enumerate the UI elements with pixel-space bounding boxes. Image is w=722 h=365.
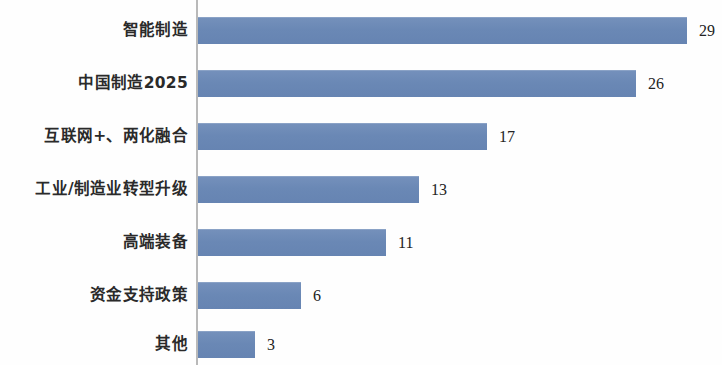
bar-rows-container: 智能制造29中国制造202526互联网+、两化融合17工业/制造业转型升级13高… [0, 0, 722, 365]
bar-category-label: 互联网+、两化融合 [0, 123, 188, 150]
bar-value-label: 6 [313, 282, 321, 309]
bar-category-label: 其他 [0, 331, 188, 358]
bar-value-label: 13 [431, 176, 447, 203]
bar-row: 智能制造29 [0, 17, 722, 44]
bar [198, 70, 636, 97]
bar-category-label: 资金支持政策 [0, 282, 188, 309]
bar-category-label: 中国制造2025 [0, 70, 188, 97]
bar [198, 17, 687, 44]
bar-value-label: 29 [699, 17, 715, 44]
bar [198, 229, 386, 256]
bar-row: 高端装备11 [0, 229, 722, 256]
bar-category-label: 智能制造 [0, 17, 188, 44]
bar-value-label: 11 [398, 229, 413, 256]
bar-row: 中国制造202526 [0, 70, 722, 97]
bar-value-label: 26 [648, 70, 664, 97]
horizontal-bar-chart: 智能制造29中国制造202526互联网+、两化融合17工业/制造业转型升级13高… [0, 0, 722, 365]
bar [198, 282, 301, 309]
bar-row: 其他3 [0, 331, 722, 358]
bar-value-label: 17 [499, 123, 515, 150]
bar-row: 互联网+、两化融合17 [0, 123, 722, 150]
bar [198, 331, 255, 358]
bar [198, 176, 419, 203]
bar-value-label: 3 [267, 331, 275, 358]
bar-row: 资金支持政策6 [0, 282, 722, 309]
bar-category-label: 高端装备 [0, 229, 188, 256]
bar-row: 工业/制造业转型升级13 [0, 176, 722, 203]
bar-category-label: 工业/制造业转型升级 [0, 176, 188, 203]
bar [198, 123, 487, 150]
